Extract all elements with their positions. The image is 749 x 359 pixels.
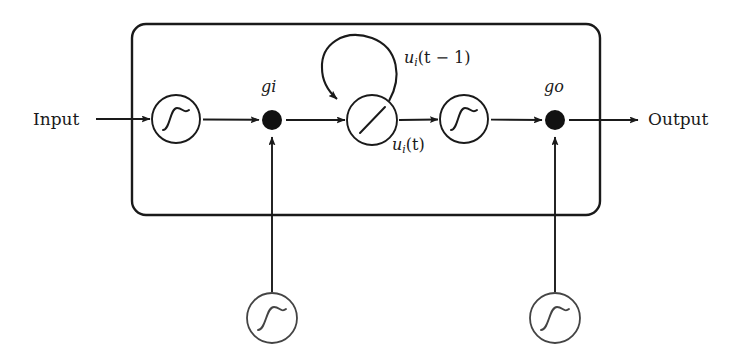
state-now-symbol: u	[392, 135, 402, 154]
node-output-gate-multiplier	[545, 110, 565, 130]
input-label: Input	[33, 111, 79, 128]
output-gate-label-text: go	[544, 77, 564, 96]
state-prev-argument: (t − 1)	[418, 48, 471, 67]
edge-state-to-output-squash	[399, 120, 438, 121]
node-output-gate-unit	[530, 293, 580, 343]
node-input-squashing-unit	[152, 95, 200, 143]
lstm-cell-diagram	[0, 0, 749, 359]
state-prev-label: ui(t − 1)	[404, 50, 470, 69]
output-gate-label: go	[544, 79, 564, 95]
state-prev-symbol: u	[404, 48, 414, 67]
diagram-canvas: Input Output gi go ui(t − 1) ui(t)	[0, 0, 749, 359]
state-now-label: ui(t)	[392, 137, 425, 156]
edge-state-self-recurrence	[322, 35, 396, 101]
node-input-gate-unit	[247, 293, 297, 343]
input-gate-label: gi	[261, 79, 276, 95]
node-cell-state-unit	[347, 95, 397, 145]
output-label: Output	[648, 111, 708, 128]
state-now-argument: (t)	[406, 135, 425, 154]
node-input-gate-multiplier	[262, 110, 282, 130]
node-output-squashing-unit	[440, 95, 488, 143]
